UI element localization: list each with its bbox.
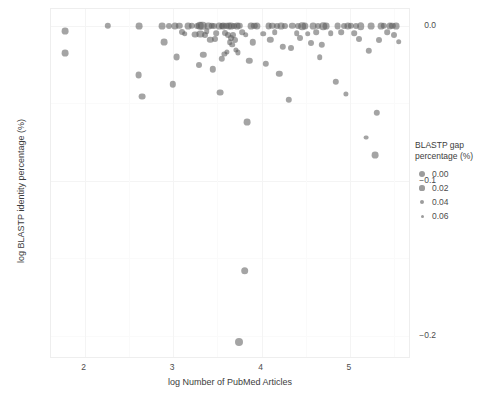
legend-marker-icon (421, 215, 424, 218)
gridline-vertical-minor (217, 9, 218, 357)
data-point (393, 23, 400, 30)
data-point (352, 30, 358, 36)
data-point (235, 50, 240, 55)
legend-item-label: 0.04 (432, 197, 449, 207)
legend-item-label: 0.06 (432, 211, 449, 221)
data-point (341, 23, 347, 29)
legend-key (415, 181, 429, 195)
data-point (384, 29, 390, 35)
data-point (286, 96, 292, 102)
x-axis-tick-label: 5 (347, 362, 352, 372)
data-point (391, 32, 397, 38)
data-point (396, 39, 402, 45)
data-point (217, 89, 224, 96)
gridline-horizontal-major (51, 181, 409, 182)
legend-title: BLASTP gap percentage (%) (415, 140, 479, 162)
data-point (210, 66, 216, 72)
data-point (371, 152, 378, 159)
y-axis-tick-label: −0.2 (419, 330, 436, 340)
legend-item: 0.04 (415, 195, 479, 209)
data-point (267, 37, 273, 43)
data-point (173, 54, 180, 61)
data-point (274, 23, 280, 29)
data-point (260, 31, 266, 37)
data-point (135, 71, 142, 78)
data-point (62, 50, 69, 57)
data-point (356, 36, 362, 42)
data-point (263, 61, 269, 67)
data-point (62, 28, 69, 35)
legend: BLASTP gap percentage (%) 0.000.020.040.… (415, 140, 479, 223)
data-point (282, 23, 288, 29)
data-point (272, 29, 278, 35)
data-point (338, 29, 344, 35)
data-point (235, 338, 243, 346)
gridline-vertical-minor (129, 9, 130, 357)
legend-marker-icon (419, 185, 424, 190)
data-point (317, 54, 323, 60)
legend-title-line1: BLASTP gap (415, 140, 479, 151)
gridline-vertical-minor (306, 9, 307, 357)
legend-key (415, 195, 429, 209)
data-point (353, 23, 359, 29)
data-point (222, 51, 227, 56)
data-point (280, 44, 286, 50)
data-point (196, 62, 202, 68)
legend-item: 0.02 (415, 181, 479, 195)
data-point (328, 30, 334, 36)
data-point (343, 92, 348, 97)
data-point (243, 32, 249, 38)
x-axis-tick-label: 3 (170, 362, 175, 372)
legend-title-line2: percentage (%) (415, 151, 479, 162)
data-point (214, 30, 220, 36)
data-point (295, 23, 301, 29)
data-point (373, 110, 379, 116)
data-point (236, 23, 242, 29)
gridline-vertical-major (350, 9, 351, 357)
legend-item: 0.06 (415, 209, 479, 223)
legend-key (415, 209, 429, 223)
data-point (139, 93, 146, 100)
y-axis-label: log BLASTP identity percentage (%) (14, 16, 28, 366)
data-point (204, 29, 210, 35)
data-point (315, 23, 321, 29)
data-point (294, 30, 300, 36)
legend-marker-icon (419, 171, 426, 178)
gridline-horizontal-minor (51, 103, 409, 104)
legend-entries: 0.000.020.040.06 (415, 167, 479, 223)
data-point (368, 23, 375, 30)
legend-item: 0.00 (415, 167, 479, 181)
data-point (246, 58, 252, 64)
gridline-vertical-major (173, 9, 174, 357)
data-point (314, 29, 320, 35)
data-point (212, 36, 218, 42)
legend-key (415, 167, 429, 181)
data-point (136, 23, 143, 30)
y-axis-label-wrap: log BLASTP identity percentage (%) (10, 8, 24, 358)
data-point (166, 23, 172, 29)
x-axis-label: log Number of PubMed Articles (50, 377, 410, 387)
data-point (363, 135, 368, 140)
y-axis-tick-label: 0.0 (424, 20, 436, 30)
gridline-vertical-major (85, 9, 86, 357)
data-point (365, 48, 371, 54)
data-point (244, 119, 251, 126)
data-point (182, 31, 188, 37)
data-point (305, 31, 311, 37)
legend-item-label: 0.00 (432, 169, 449, 179)
data-point (253, 22, 260, 29)
data-point (288, 45, 294, 51)
data-point (241, 267, 249, 275)
plot-panel (50, 8, 410, 358)
x-axis-tick-label: 2 (81, 362, 86, 372)
data-point (249, 39, 255, 45)
gridline-vertical-minor (394, 9, 395, 357)
gridline-horizontal-minor (51, 258, 409, 259)
data-point (276, 71, 282, 77)
data-point (200, 51, 206, 57)
data-point (318, 41, 324, 47)
scatter-plot-figure: 0.0−0.1−0.2 2345 log Number of PubMed Ar… (0, 0, 480, 403)
data-point (104, 23, 110, 29)
legend-marker-icon (420, 200, 424, 204)
data-point (211, 23, 217, 29)
